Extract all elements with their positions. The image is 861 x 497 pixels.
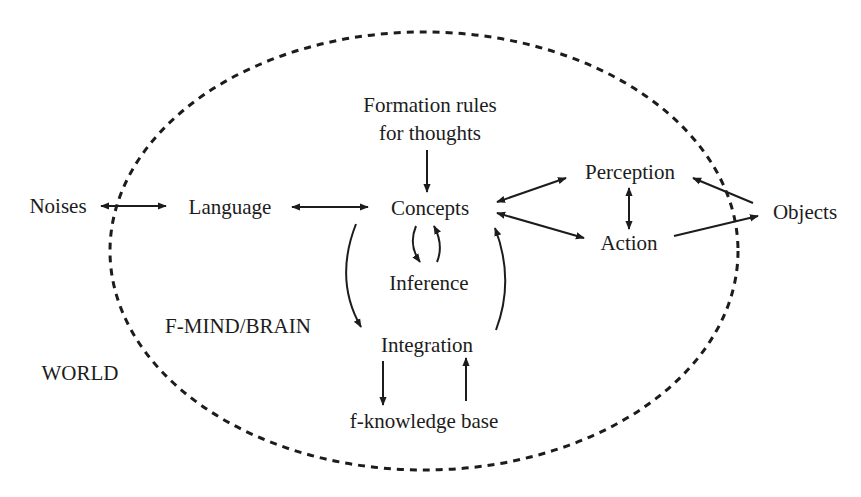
node-formation-rules: Formation rules for thoughts — [363, 91, 497, 147]
node-language: Language — [189, 197, 272, 218]
node-integration: Integration — [381, 335, 473, 356]
label-world: WORLD — [42, 363, 119, 384]
arrow-concepts-perception — [497, 178, 566, 202]
node-perception: Perception — [585, 162, 675, 183]
node-inference: Inference — [389, 273, 468, 294]
node-action: Action — [600, 233, 657, 254]
formation-rules-line2: for thoughts — [363, 119, 497, 147]
node-objects: Objects — [773, 202, 837, 223]
diagram-canvas: Noises Language Concepts Formation rules… — [0, 0, 861, 497]
label-mind-brain: F-MIND/BRAIN — [165, 316, 311, 337]
node-knowledge-base: f-knowledge base — [350, 411, 499, 432]
node-noises: Noises — [29, 196, 86, 217]
arrow-action-objects — [674, 216, 758, 236]
arrow-integration-concepts — [495, 228, 505, 330]
node-concepts: Concepts — [391, 198, 469, 219]
arrow-inference-concepts — [434, 226, 440, 262]
formation-rules-line1: Formation rules — [363, 91, 497, 119]
arrow-concepts-integration — [346, 224, 361, 327]
arrow-concepts-inference — [413, 226, 420, 262]
arrow-concepts-action — [497, 213, 584, 238]
